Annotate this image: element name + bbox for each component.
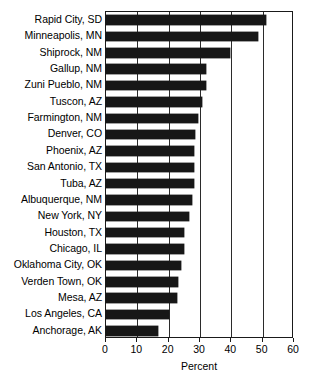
bar-row xyxy=(106,323,292,339)
category-label: Chicago, IL xyxy=(49,240,102,256)
category-label: Houston, TX xyxy=(44,224,102,240)
bar xyxy=(106,195,192,205)
tick-label-50: 50 xyxy=(247,343,277,356)
plot-area xyxy=(105,11,293,338)
bar xyxy=(106,130,195,140)
bar xyxy=(106,293,177,303)
bar-row xyxy=(106,28,292,44)
bar xyxy=(106,277,178,287)
category-label: Mesa, AZ xyxy=(58,289,102,305)
bar-series xyxy=(106,12,292,337)
category-label: New York, NY xyxy=(38,207,102,223)
bar xyxy=(106,114,198,124)
bar-row xyxy=(106,225,292,241)
bar-chart-figure: Rapid City, SDMinneapolis, MNShiprock, N… xyxy=(0,0,311,387)
tick-label-20: 20 xyxy=(153,343,183,356)
bar-row xyxy=(106,126,292,142)
bar-row xyxy=(106,192,292,208)
bar-row xyxy=(106,257,292,273)
bar xyxy=(106,326,158,336)
category-label: Denver, CO xyxy=(48,125,102,141)
category-label: Verden Town, OK xyxy=(21,273,102,289)
bar-row xyxy=(106,241,292,257)
tick-mark-20 xyxy=(168,338,169,342)
category-axis-labels: Rapid City, SDMinneapolis, MNShiprock, N… xyxy=(0,11,102,338)
bar-row xyxy=(106,77,292,93)
category-label: San Antonio, TX xyxy=(27,158,102,174)
bar xyxy=(106,163,194,173)
bar-row xyxy=(106,45,292,61)
category-label: Rapid City, SD xyxy=(35,11,102,27)
tick-label-0: 0 xyxy=(90,343,120,356)
bar xyxy=(106,97,202,107)
x-axis-title: Percent xyxy=(105,360,293,372)
bar-row xyxy=(106,12,292,28)
category-label: Minneapolis, MN xyxy=(25,27,102,43)
bar-row xyxy=(106,143,292,159)
bar-row xyxy=(106,290,292,306)
bar-row xyxy=(106,159,292,175)
bar-row xyxy=(106,110,292,126)
bar xyxy=(106,81,206,91)
bar xyxy=(106,212,189,222)
bar xyxy=(106,48,230,58)
tick-mark-60 xyxy=(293,338,294,342)
bar-row xyxy=(106,176,292,192)
tick-label-30: 30 xyxy=(184,343,214,356)
bar xyxy=(106,146,194,156)
bar-row xyxy=(106,306,292,322)
bar xyxy=(106,261,181,271)
figure-caption xyxy=(14,379,304,387)
category-label: Phoenix, AZ xyxy=(46,142,102,158)
tick-mark-40 xyxy=(230,338,231,342)
bar-row xyxy=(106,208,292,224)
category-label: Oklahoma City, OK xyxy=(14,256,102,272)
tick-label-40: 40 xyxy=(215,343,245,356)
bar xyxy=(106,244,184,254)
bar xyxy=(106,15,266,25)
category-label: Anchorage, AK xyxy=(33,322,102,338)
category-label: Albuquerque, NM xyxy=(21,191,102,207)
tick-mark-0 xyxy=(105,338,106,342)
category-label: Shiprock, NM xyxy=(40,44,102,60)
bar xyxy=(106,64,206,74)
bar xyxy=(106,32,258,42)
category-label: Gallup, NM xyxy=(50,60,102,76)
bar-row xyxy=(106,274,292,290)
bar-row xyxy=(106,61,292,77)
tick-mark-10 xyxy=(136,338,137,342)
category-label: Farmington, NM xyxy=(27,109,102,125)
category-label: Tuscon, AZ xyxy=(50,93,102,109)
bar xyxy=(106,310,169,320)
tick-mark-50 xyxy=(262,338,263,342)
bar xyxy=(106,179,194,189)
tick-label-60: 60 xyxy=(278,343,308,356)
tick-label-10: 10 xyxy=(121,343,151,356)
tick-mark-30 xyxy=(199,338,200,342)
bar xyxy=(106,228,184,238)
bar-row xyxy=(106,94,292,110)
category-label: Los Angeles, CA xyxy=(25,305,102,321)
category-label: Zuni Pueblo, NM xyxy=(25,76,102,92)
category-label: Tuba, AZ xyxy=(60,175,102,191)
